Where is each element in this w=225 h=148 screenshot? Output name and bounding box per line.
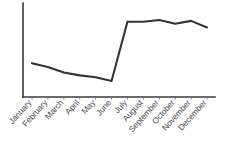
chart-canvas: JanuaryFebruaryMarchAprilMayJuneJulyAugu… [0,0,225,148]
x-tick-label-april: April [63,97,81,116]
series-group [32,20,207,81]
x-tick-label-june: June [94,97,114,117]
line-chart: JanuaryFebruaryMarchAprilMayJuneJulyAugu… [0,0,225,148]
x-axis-labels: JanuaryFebruaryMarchAprilMayJuneJulyAugu… [7,97,209,134]
data-line-series-0 [32,20,207,81]
